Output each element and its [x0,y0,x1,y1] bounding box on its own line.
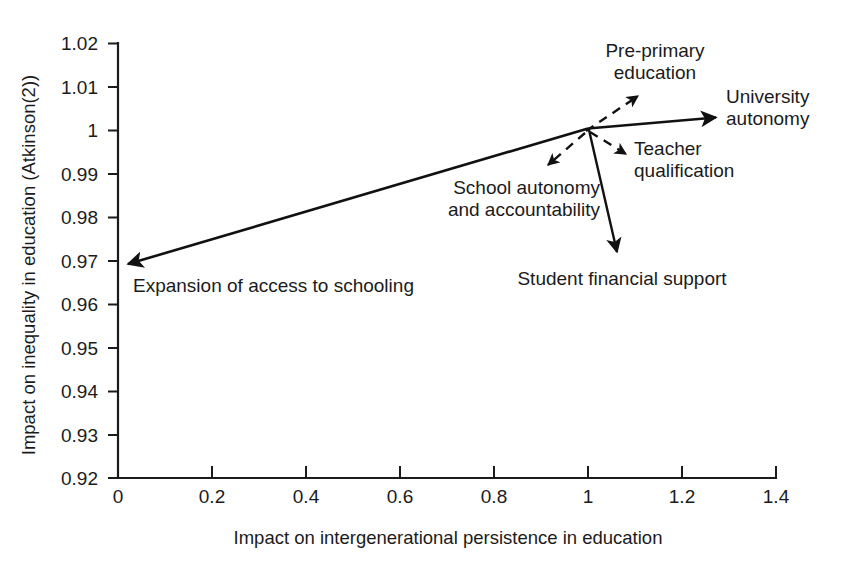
chart-figure: 1.02 1.01 1 0.99 0.98 0.97 0.96 0.95 0.9… [0,0,843,576]
annotation-expansion-of-access: Expansion of access to schooling [133,275,414,297]
x-tick-label: 0.2 [199,487,225,506]
y-axis-title: Impact on inequality in education (Atkin… [18,30,40,500]
y-axis [108,43,118,478]
x-tick-label: 1 [583,487,594,506]
annotation-school-autonomy: School autonomy and accountability [300,177,600,221]
y-tick-label: 0.97 [30,252,98,271]
annotation-line: Pre-primary [605,40,704,62]
y-tick-label: 0.92 [30,469,98,488]
x-tick-label: 0.8 [481,487,507,506]
y-tick-label: 0.93 [30,426,98,445]
annotation-line: Expansion of access to schooling [133,275,414,296]
annotation-line: education [605,62,704,84]
x-tick-label: 1.4 [763,487,789,506]
y-tick-label: 0.94 [30,382,98,401]
annotation-line: qualification [634,160,734,182]
y-tick-label: 1 [30,121,98,140]
x-tick-label: 0 [113,487,124,506]
x-tick-label: 0.4 [293,487,319,506]
x-axis [118,466,776,478]
x-axis-title: Impact on intergenerational persistence … [118,527,778,549]
annotation-line: and accountability [300,199,600,221]
y-tick-label: 1.02 [30,34,98,53]
annotation-line: University [726,86,809,108]
y-tick-label: 0.98 [30,208,98,227]
annotation-student-financial-support: Student financial support [517,268,726,290]
x-tick-label: 1.2 [669,487,695,506]
annotation-line: autonomy [726,108,809,130]
y-tick-label: 0.96 [30,295,98,314]
annotation-pre-primary-education: Pre-primary education [605,40,704,84]
callout-arrow-teacher-qualification [590,132,626,154]
annotation-line: Student financial support [517,268,726,289]
x-tick-label: 0.6 [387,487,413,506]
annotation-line: Teacher [634,138,734,160]
y-tick-label: 0.95 [30,339,98,358]
y-tick-label: 1.01 [30,78,98,97]
annotation-line: School autonomy [300,177,600,199]
annotation-teacher-qualification: Teacher qualification [634,138,734,182]
annotation-university-autonomy: University autonomy [726,86,809,130]
y-tick-label: 0.99 [30,165,98,184]
